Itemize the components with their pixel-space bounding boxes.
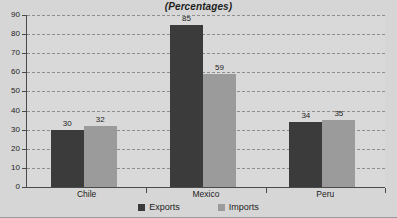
category-label-chile: Chile [47, 189, 127, 200]
x-axis-tick [146, 188, 147, 193]
bar-value-label: 35 [324, 109, 354, 118]
y-axis-tick-label: 30 [0, 126, 20, 134]
bar-value-label: 59 [205, 63, 235, 72]
y-axis-tick-label: 70 [0, 49, 20, 57]
bar-mexico-exports [170, 25, 203, 187]
y-axis-tick-label: 80 [0, 30, 20, 38]
plot-area [27, 15, 385, 187]
legend-item-exports: Exports [138, 202, 180, 212]
x-axis-line [26, 187, 385, 188]
grid-line [27, 53, 385, 54]
legend-item-imports: Imports [218, 202, 259, 212]
bar-mexico-imports [203, 74, 236, 187]
bar-value-label: 34 [291, 111, 321, 120]
bar-chart: (Percentages) 0102030405060708090 ChileM… [0, 0, 397, 218]
grid-line [27, 72, 385, 73]
chart-title: (Percentages) [0, 0, 397, 13]
x-axis-tick [385, 188, 386, 193]
legend-swatch-exports [138, 204, 145, 211]
bar-value-label: 85 [172, 14, 202, 23]
bottom-rule [0, 217, 397, 218]
bar-peru-exports [289, 122, 322, 187]
bar-chile-imports [84, 126, 117, 187]
bar-peru-imports [322, 120, 355, 187]
chart-legend: Exports Imports [0, 202, 397, 212]
y-axis-tick-label: 50 [0, 87, 20, 95]
category-label-mexico: Mexico [166, 189, 246, 200]
bar-value-label: 32 [85, 115, 115, 124]
x-axis-tick [266, 188, 267, 193]
y-axis-tick-label: 0 [0, 183, 20, 191]
y-axis-tick-label: 90 [0, 11, 20, 19]
y-axis-line [26, 15, 27, 188]
grid-line [27, 34, 385, 35]
legend-label-exports: Exports [149, 202, 180, 212]
grid-line [27, 15, 385, 16]
category-label-peru: Peru [285, 189, 365, 200]
y-axis-tick-label: 10 [0, 164, 20, 172]
bar-value-label: 30 [52, 119, 82, 128]
legend-label-imports: Imports [229, 202, 259, 212]
y-axis-tick-label: 40 [0, 107, 20, 115]
y-axis-tick-label: 60 [0, 68, 20, 76]
legend-swatch-imports [218, 204, 225, 211]
y-axis-tick-label: 20 [0, 145, 20, 153]
bar-chile-exports [51, 130, 84, 187]
